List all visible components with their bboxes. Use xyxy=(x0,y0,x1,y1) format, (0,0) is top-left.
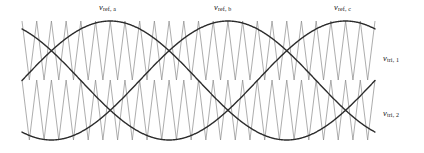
reference-sine-v-ref-b xyxy=(22,21,375,140)
label-v-tri-1: vtri, 1 xyxy=(383,54,399,63)
label-v-ref-b-sub: ref, b xyxy=(218,6,232,12)
pwm-waveform-figure: vref, a vref, b vref, c vtri, 1 vtri, 2 xyxy=(0,0,424,153)
label-v-ref-b: vref, b xyxy=(214,3,231,12)
label-v-tri-2: vtri, 2 xyxy=(383,109,399,118)
label-v-tri-2-sub: tri, 2 xyxy=(387,112,399,118)
label-v-ref-c: vref, c xyxy=(334,3,351,12)
label-v-ref-c-sub: ref, c xyxy=(338,6,351,12)
label-v-ref-a-sub: ref, a xyxy=(103,6,116,12)
label-v-tri-1-sub: tri, 1 xyxy=(387,57,399,63)
waveform-plot xyxy=(0,0,424,153)
carrier-triangle-2 xyxy=(22,80,375,140)
carrier-triangle-1 xyxy=(22,21,375,80)
reference-waveforms-group xyxy=(22,21,375,140)
label-v-ref-a: vref, a xyxy=(99,3,116,12)
